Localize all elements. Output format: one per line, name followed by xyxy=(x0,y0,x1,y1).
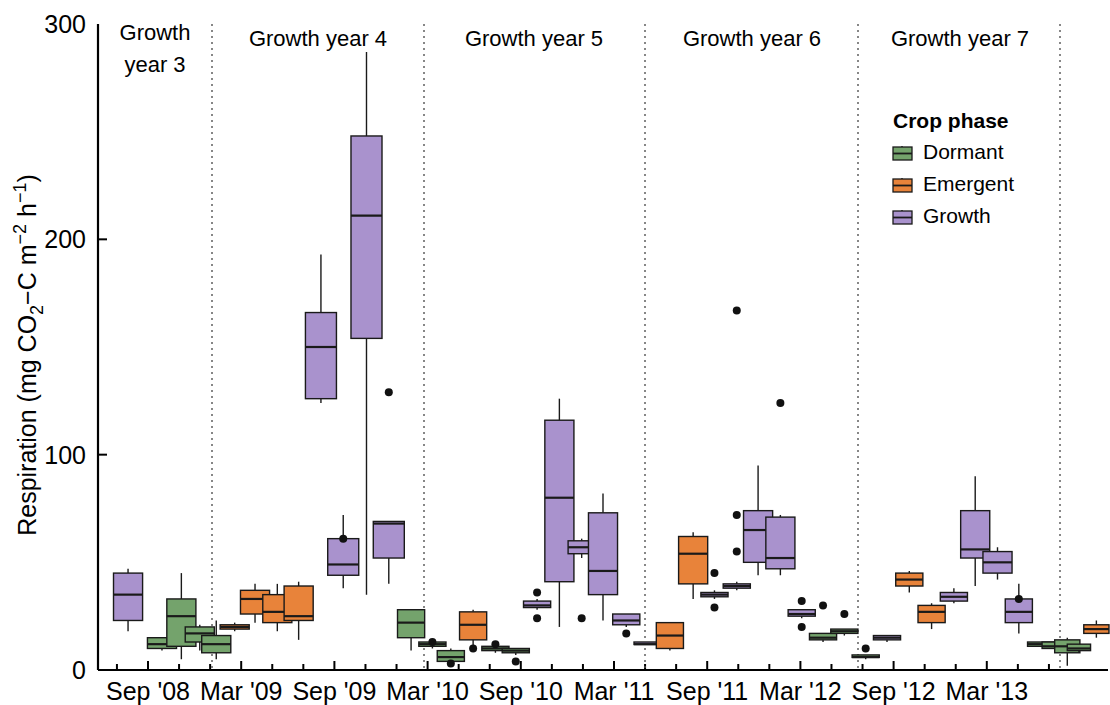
boxplot-box xyxy=(918,603,945,629)
outlier-point xyxy=(385,388,393,396)
boxplot-box xyxy=(373,388,404,584)
x-tick-label: Mar '12 xyxy=(759,677,842,705)
boxplot-box xyxy=(284,582,313,640)
x-tick-label: Mar '13 xyxy=(946,677,1029,705)
box-body xyxy=(351,136,382,338)
panel-label: Growth year 5 xyxy=(465,26,603,51)
box-body xyxy=(679,536,708,583)
outlier-point xyxy=(733,548,741,556)
legend-item[interactable]: Dormant xyxy=(893,140,1004,163)
boxplot-box xyxy=(656,623,683,651)
panel-label: Growth year 6 xyxy=(683,26,821,51)
boxplot-box xyxy=(328,515,359,588)
outlier-point xyxy=(733,306,741,314)
legend-item-label: Dormant xyxy=(923,140,1004,163)
outlier-point xyxy=(491,640,499,648)
respiration-boxplot-figure: 0100200300Sep '08Mar '09Sep '09Mar '10Se… xyxy=(0,0,1110,705)
panel-label: Growth year 7 xyxy=(891,26,1029,51)
box-body xyxy=(588,513,617,595)
boxplot-box xyxy=(114,569,143,631)
outlier-point xyxy=(819,601,827,609)
y-tick-label: 0 xyxy=(72,656,86,684)
boxplot-box xyxy=(502,648,529,665)
box-body xyxy=(766,517,795,569)
boxplot-box xyxy=(305,254,336,403)
outlier-point xyxy=(776,399,784,407)
boxplot-box xyxy=(419,638,446,648)
boxplot-box xyxy=(788,597,815,631)
outlier-point xyxy=(469,644,477,652)
outlier-point xyxy=(447,660,455,668)
outlier-point xyxy=(862,644,870,652)
outlier-point xyxy=(339,535,347,543)
x-tick-label: Sep '09 xyxy=(292,677,376,705)
box-body xyxy=(918,605,945,622)
box-body xyxy=(305,313,336,399)
boxplot-box xyxy=(940,588,967,603)
x-tick-label: Sep '08 xyxy=(106,677,190,705)
outlier-point xyxy=(733,511,741,519)
outlier-point xyxy=(533,614,541,622)
x-tick-label: Sep '10 xyxy=(479,677,563,705)
boxplot-box xyxy=(351,52,382,595)
x-tick-label: Mar '11 xyxy=(574,677,655,705)
box-body xyxy=(114,573,143,620)
boxplot-box xyxy=(588,493,617,620)
y-tick-label: 200 xyxy=(44,225,86,253)
boxplot-box xyxy=(167,573,196,659)
outlier-point xyxy=(798,623,806,631)
boxplot-box xyxy=(220,623,249,632)
panel-label: Growth year 4 xyxy=(249,26,387,51)
boxplot-box xyxy=(524,588,551,622)
box-body xyxy=(545,420,574,582)
legend-item[interactable]: Emergent xyxy=(893,172,1014,195)
legend-title: Crop phase xyxy=(893,109,1009,132)
outlier-point xyxy=(533,588,541,596)
outlier-point xyxy=(1015,595,1023,603)
boxplot-box xyxy=(679,532,708,599)
legend-item-label: Emergent xyxy=(923,172,1014,195)
boxplot-box xyxy=(1084,620,1109,637)
boxplot-box xyxy=(809,601,836,642)
boxplot-box xyxy=(983,547,1012,579)
outlier-point xyxy=(710,569,718,577)
x-tick-label: Sep '12 xyxy=(852,677,936,705)
boxplot-box xyxy=(545,399,574,627)
boxplot-box xyxy=(613,614,640,637)
outlier-point xyxy=(710,604,718,612)
legend-item-label: Growth xyxy=(923,204,991,227)
boxplot-box xyxy=(831,610,858,636)
y-axis-title: Respiration (mg CO2−C m−2 h−1) xyxy=(10,174,47,536)
x-tick-label: Mar '10 xyxy=(386,677,469,705)
boxplot-box xyxy=(1005,584,1032,634)
box-body xyxy=(373,521,404,558)
outlier-point xyxy=(840,610,848,618)
boxplot-box xyxy=(437,648,464,667)
outlier-point xyxy=(578,614,586,622)
y-tick-label: 100 xyxy=(44,441,86,469)
y-tick-label: 300 xyxy=(44,10,86,38)
outlier-point xyxy=(428,638,436,646)
box-body xyxy=(328,539,359,576)
legend-item[interactable]: Growth xyxy=(893,204,991,227)
boxplot-box xyxy=(852,644,879,659)
outlier-point xyxy=(622,629,630,637)
outlier-point xyxy=(798,597,806,605)
boxplot-box xyxy=(896,571,923,593)
boxplot-box xyxy=(873,636,900,642)
boxplot-box xyxy=(1055,638,1080,666)
panel-label: Growth xyxy=(120,20,191,45)
panel-label: year 3 xyxy=(124,52,185,77)
x-tick-label: Sep '11 xyxy=(666,677,748,705)
boxplot-box xyxy=(766,399,795,575)
outlier-point xyxy=(512,657,520,665)
x-tick-label: Mar '09 xyxy=(200,677,283,705)
chart-canvas: 0100200300Sep '08Mar '09Sep '09Mar '10Se… xyxy=(0,0,1110,705)
